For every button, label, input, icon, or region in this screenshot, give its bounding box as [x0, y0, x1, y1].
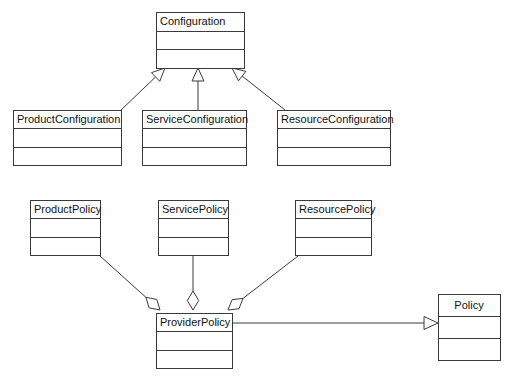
- class-box-service-policy[interactable]: ServicePolicy: [159, 201, 229, 256]
- generalization-arrowhead: [192, 68, 204, 81]
- relationship-generalization-product-configuration-to-configuration[interactable]: [121, 68, 165, 110]
- relationship-generalization-provider-policy-to-policy[interactable]: [232, 317, 438, 330]
- class-name-label: ProviderPolicy: [160, 316, 231, 328]
- generalization-arrowhead: [232, 68, 246, 81]
- aggregation-diamond: [187, 291, 198, 310]
- class-name-label: ResourcePolicy: [299, 203, 376, 215]
- uml-class-diagram: ConfigurationProductConfigurationService…: [0, 0, 517, 379]
- class-name-label: ProductPolicy: [34, 203, 102, 215]
- class-box-provider-policy[interactable]: ProviderPolicy: [157, 314, 233, 369]
- relationship-aggregation-service-policy-to-provider-policy[interactable]: [187, 256, 198, 310]
- aggregation-line: [100, 256, 146, 297]
- relationship-aggregation-resource-policy-to-provider-policy[interactable]: [228, 256, 298, 310]
- class-box-product-configuration[interactable]: ProductConfiguration: [14, 111, 122, 166]
- relationship-generalization-service-configuration-to-configuration[interactable]: [192, 68, 204, 110]
- class-box-policy[interactable]: Policy: [439, 295, 501, 361]
- class-box-product-policy[interactable]: ProductPolicy: [31, 201, 102, 256]
- class-box-resource-policy[interactable]: ResourcePolicy: [296, 201, 376, 256]
- class-box-configuration[interactable]: Configuration: [157, 13, 245, 69]
- aggregation-diamond: [146, 297, 160, 310]
- generalization-line: [242, 76, 285, 110]
- class-name-label: ServiceConfiguration: [146, 113, 248, 125]
- class-layer: ConfigurationProductConfigurationService…: [14, 13, 501, 369]
- class-name-label: Policy: [454, 299, 484, 311]
- relationship-aggregation-product-policy-to-provider-policy[interactable]: [100, 256, 160, 310]
- aggregation-line: [243, 256, 298, 298]
- generalization-line: [121, 77, 156, 110]
- generalization-arrowhead: [424, 317, 438, 330]
- class-box-resource-configuration[interactable]: ResourceConfiguration: [278, 111, 394, 166]
- class-name-label: Configuration: [160, 15, 225, 27]
- relationship-generalization-resource-configuration-to-configuration[interactable]: [232, 68, 285, 110]
- class-box-service-configuration[interactable]: ServiceConfiguration: [143, 111, 249, 166]
- class-name-label: ServicePolicy: [162, 203, 229, 215]
- aggregation-diamond: [228, 298, 243, 310]
- class-name-label: ProductConfiguration: [17, 113, 120, 125]
- connector-layer: [100, 68, 438, 329]
- class-name-label: ResourceConfiguration: [281, 113, 394, 125]
